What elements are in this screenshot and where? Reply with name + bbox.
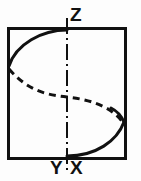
axis-label-y: Y — [50, 158, 63, 177]
figure-canvas: Z Y X — [0, 0, 141, 181]
helix-front-upper-arc — [9, 30, 67, 66]
helix-front-lower-arc — [67, 122, 124, 156]
helix-diagram-svg — [0, 0, 141, 181]
axis-label-x: X — [70, 158, 83, 177]
axis-label-z: Z — [70, 5, 82, 24]
